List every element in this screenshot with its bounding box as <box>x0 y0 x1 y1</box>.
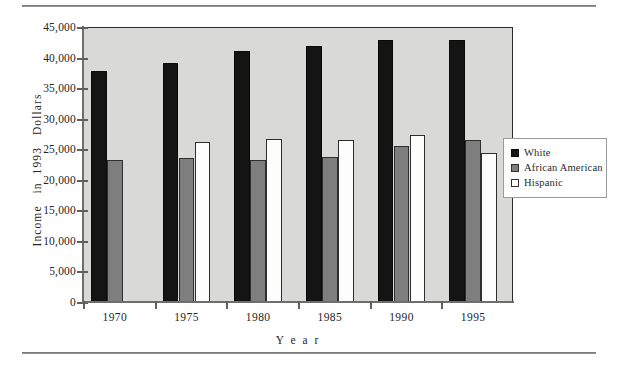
legend-item-hispanic: Hispanic <box>511 175 599 190</box>
x-tick-label: 1990 <box>362 311 442 323</box>
bar <box>250 160 266 302</box>
bar <box>394 146 410 302</box>
bar <box>234 51 250 302</box>
x-tick-label: 1995 <box>433 311 513 323</box>
y-tick-mark <box>77 119 88 121</box>
legend-swatch-african-american-icon <box>511 164 519 172</box>
y-tick-label: 0 <box>0 296 76 308</box>
bar <box>91 71 107 302</box>
x-tick-label: 1970 <box>75 311 155 323</box>
x-tick-label: 1980 <box>218 311 298 323</box>
chart-legend: White African American Hispanic <box>503 138 607 198</box>
y-tick-mark <box>77 149 88 151</box>
bar <box>465 140 481 302</box>
page-rule-top <box>22 5 596 7</box>
bar <box>306 46 322 302</box>
y-tick-mark <box>77 88 88 90</box>
x-tick-mark <box>298 301 300 309</box>
x-axis-title: Y e a r <box>83 334 513 346</box>
y-tick-mark <box>77 58 88 60</box>
bar <box>449 40 465 302</box>
x-tick-mark <box>226 301 228 309</box>
x-tick-label: 1985 <box>290 311 370 323</box>
y-axis <box>82 26 84 303</box>
legend-swatch-hispanic-icon <box>511 179 519 187</box>
bar <box>195 142 211 302</box>
bar <box>179 158 195 302</box>
bar <box>481 153 497 302</box>
y-tick-label: 45,000 <box>0 21 76 33</box>
legend-label-african-american: African American <box>524 162 603 173</box>
x-tick-label: 1975 <box>147 311 227 323</box>
bar <box>163 63 179 302</box>
x-axis <box>82 301 514 303</box>
bar <box>338 140 354 302</box>
bar <box>378 40 394 302</box>
y-tick-mark <box>77 210 88 212</box>
y-tick-mark <box>77 180 88 182</box>
y-tick-mark <box>77 271 88 273</box>
y-tick-mark <box>77 241 88 243</box>
y-tick-label: 40,000 <box>0 52 76 64</box>
legend-swatch-white-icon <box>511 149 519 157</box>
legend-label-white: White <box>524 147 551 158</box>
bar <box>266 139 282 302</box>
y-axis-title: Income in 1993 Dollars <box>31 70 43 270</box>
income-bar-chart-figure: 05,00010,00015,00020,00025,00030,00035,0… <box>0 0 617 365</box>
legend-item-african-american: African American <box>511 160 599 175</box>
bars-layer <box>83 27 513 302</box>
x-tick-mark <box>155 301 157 309</box>
legend-label-hispanic: Hispanic <box>524 177 563 188</box>
x-tick-mark <box>370 301 372 309</box>
y-tick-mark <box>77 27 88 29</box>
legend-item-white: White <box>511 145 599 160</box>
bar <box>322 157 338 302</box>
bar <box>410 135 426 302</box>
x-tick-mark <box>441 301 443 309</box>
x-tick-mark <box>83 301 85 309</box>
page-rule-bottom <box>22 352 596 354</box>
bar <box>107 160 123 302</box>
